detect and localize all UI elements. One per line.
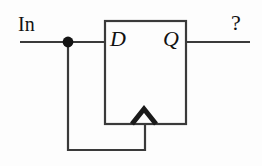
output-unknown-label: ?	[231, 12, 241, 34]
schematic-canvas: In D Q ?	[0, 0, 262, 166]
circuit-schematic	[0, 0, 262, 166]
canvas-background	[0, 0, 262, 166]
data-pin-label: D	[110, 28, 126, 50]
input-label: In	[18, 14, 35, 34]
wire-junction-dot	[63, 37, 74, 48]
output-pin-label: Q	[163, 28, 179, 50]
